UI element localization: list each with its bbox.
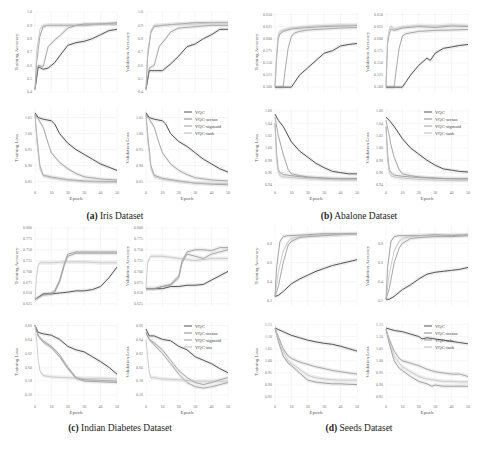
svg-text:0.650: 0.650: [263, 12, 272, 17]
svg-text:0.4: 0.4: [138, 89, 143, 94]
svg-text:30: 30: [322, 190, 326, 195]
svg-text:0.90: 0.90: [25, 163, 32, 168]
svg-text:20: 20: [66, 190, 70, 195]
svg-text:10: 10: [49, 190, 53, 195]
svg-text:30: 30: [433, 190, 437, 195]
svg-text:0.85: 0.85: [25, 179, 32, 184]
svg-text:0: 0: [274, 404, 276, 409]
svg-text:0: 0: [34, 404, 36, 409]
svg-text:10: 10: [400, 190, 404, 195]
svg-text:0.7: 0.7: [27, 49, 32, 54]
svg-text:10: 10: [400, 404, 404, 409]
svg-text:30: 30: [322, 404, 326, 409]
svg-text:40: 40: [450, 190, 454, 195]
svg-text:0.4: 0.4: [378, 279, 383, 284]
svg-text:0.96: 0.96: [376, 170, 383, 175]
svg-text:30: 30: [433, 404, 437, 409]
svg-text:0.650: 0.650: [374, 12, 383, 17]
svg-text:40: 40: [99, 404, 103, 409]
svg-text:0.800: 0.800: [134, 225, 143, 230]
svg-text:VQC: VQC: [435, 324, 445, 329]
svg-text:10: 10: [49, 404, 53, 409]
svg-text:Validation Loss: Validation Loss: [125, 132, 130, 163]
legend: VQCVQC-arctanVQC-sigmoidVQC-atu: [184, 324, 222, 350]
subplot-abalone-train-loss: 0.940.960.981.001.021.041.0601020304050E…: [275, 108, 357, 188]
svg-text:1.04: 1.04: [376, 121, 383, 126]
svg-text:0.62: 0.62: [25, 351, 32, 356]
svg-text:0.95: 0.95: [136, 147, 143, 152]
svg-text:1.04: 1.04: [265, 121, 272, 126]
svg-text:Epoch: Epoch: [181, 196, 194, 201]
svg-text:1.00: 1.00: [376, 358, 383, 363]
svg-text:30: 30: [193, 190, 197, 195]
svg-text:50: 50: [466, 190, 470, 195]
subplot-abalone-val-loss: 0.940.960.981.001.021.041.0601020304050E…: [386, 108, 468, 188]
svg-text:VQC-tanh: VQC-tanh: [195, 131, 215, 136]
caption-diabetes: (c) Indian Diabetes Dataset: [30, 423, 210, 433]
svg-text:0.625: 0.625: [374, 24, 383, 29]
svg-text:0: 0: [145, 190, 147, 195]
svg-text:VQC-arctan: VQC-arctan: [195, 331, 218, 336]
svg-text:40: 40: [210, 404, 214, 409]
svg-text:0.95: 0.95: [376, 370, 383, 375]
subplot-seeds-train-acc: 0.20.40.60.8Training Accuracy: [275, 226, 357, 306]
svg-text:0.9: 0.9: [27, 23, 32, 28]
svg-text:0.98: 0.98: [265, 158, 272, 163]
caption-seeds: (d) Seeds Dataset: [284, 423, 434, 433]
svg-text:1.06: 1.06: [376, 108, 383, 113]
svg-text:0.98: 0.98: [376, 158, 383, 163]
svg-text:50: 50: [115, 404, 119, 409]
subplot-diabetes-train-acc: 0.6250.6500.6750.7000.7250.7500.7750.800…: [35, 226, 117, 306]
svg-text:0.6: 0.6: [27, 63, 32, 68]
svg-text:30: 30: [82, 190, 86, 195]
subplot-diabetes-train-loss: 0.560.580.600.620.640.6601020304050Epoch…: [35, 322, 117, 402]
svg-text:20: 20: [306, 404, 310, 409]
svg-text:30: 30: [193, 404, 197, 409]
svg-text:50: 50: [355, 404, 359, 409]
svg-text:0.575: 0.575: [263, 48, 272, 53]
line-vqc-arctan: [275, 28, 357, 88]
svg-text:0.525: 0.525: [263, 72, 272, 77]
svg-text:Epoch: Epoch: [70, 196, 83, 201]
svg-text:0.500: 0.500: [263, 84, 272, 89]
svg-text:50: 50: [226, 190, 230, 195]
svg-text:1.02: 1.02: [376, 133, 383, 138]
subplot-diabetes-val-loss: 0.560.580.600.620.640.6601020304050Epoch…: [146, 322, 228, 402]
svg-text:0.60: 0.60: [25, 365, 32, 370]
svg-text:VQC-tanh: VQC-tanh: [435, 345, 455, 350]
svg-text:20: 20: [417, 404, 421, 409]
svg-text:20: 20: [66, 404, 70, 409]
svg-text:0.85: 0.85: [265, 394, 272, 399]
svg-text:0.96: 0.96: [265, 170, 272, 175]
svg-text:0.8: 0.8: [267, 241, 272, 246]
subplot-iris-train-loss: 0.850.900.951.001.0501020304050EpochTrai…: [35, 108, 117, 188]
svg-text:0.725: 0.725: [23, 258, 32, 263]
svg-text:Validation Loss: Validation Loss: [365, 346, 370, 377]
svg-text:Validation Accuracy: Validation Accuracy: [365, 245, 370, 286]
svg-text:1.05: 1.05: [265, 346, 272, 351]
line-vqc: [275, 44, 357, 88]
svg-text:0.56: 0.56: [136, 392, 143, 397]
svg-text:0.2: 0.2: [267, 298, 272, 303]
svg-text:1.05: 1.05: [25, 115, 32, 120]
svg-text:VQC: VQC: [195, 324, 205, 329]
svg-text:0.7: 0.7: [138, 49, 143, 54]
svg-text:Validation Loss: Validation Loss: [125, 346, 130, 377]
svg-text:0.60: 0.60: [136, 365, 143, 370]
svg-text:0.66: 0.66: [25, 323, 32, 328]
svg-text:0.56: 0.56: [25, 392, 32, 397]
svg-text:Epoch: Epoch: [421, 410, 434, 415]
svg-text:20: 20: [417, 190, 421, 195]
svg-text:0.5: 0.5: [27, 76, 32, 81]
svg-text:1.15: 1.15: [376, 322, 383, 327]
svg-text:20: 20: [177, 404, 181, 409]
svg-text:1.10: 1.10: [376, 334, 383, 339]
subplot-diabetes-val-acc: 0.6250.6500.6750.7000.7250.7500.7750.800…: [146, 226, 228, 306]
svg-text:0.775: 0.775: [134, 236, 143, 241]
svg-text:0.9: 0.9: [138, 23, 143, 28]
svg-text:VQC: VQC: [195, 110, 205, 115]
svg-text:0: 0: [385, 190, 387, 195]
svg-text:50: 50: [115, 190, 119, 195]
svg-text:50: 50: [466, 404, 470, 409]
svg-text:1.00: 1.00: [265, 358, 272, 363]
